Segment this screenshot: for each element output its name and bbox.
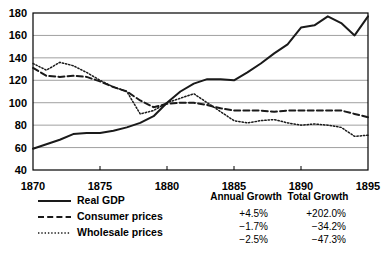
y-tick-label: 140 <box>9 52 27 64</box>
y-axis-labels: 180160140120100806040 <box>9 7 27 176</box>
x-tick-label: 1895 <box>356 180 380 192</box>
x-tick-label: 1880 <box>155 180 179 192</box>
stat-value-total: −34.2% <box>312 221 346 232</box>
legend-label: Real GDP <box>77 194 125 206</box>
gridlines-group <box>33 35 368 147</box>
stat-value-annual: −2.5% <box>239 234 268 245</box>
stat-value-annual: +4.5% <box>239 208 268 219</box>
stat-value-total: −47.3% <box>312 234 346 245</box>
y-tick-label: 180 <box>9 7 27 19</box>
y-tick-label: 80 <box>15 119 27 131</box>
x-tickmarks-group <box>100 166 301 170</box>
legend-label: Consumer prices <box>77 210 163 222</box>
stat-header-total-growth: Total Growth <box>288 191 349 202</box>
stat-header-annual-growth: Annual Growth <box>210 191 282 202</box>
stat-value-total: +202.0% <box>306 208 346 219</box>
legend-label: Wholesale prices <box>77 226 163 238</box>
y-tick-label: 100 <box>9 97 27 109</box>
x-tick-label: 1870 <box>21 180 45 192</box>
stat-value-annual: −1.7% <box>239 221 268 232</box>
series-line-consumer-prices <box>33 68 368 117</box>
legend: Real GDPConsumer pricesWholesale prices <box>38 194 163 238</box>
chart-svg: 180160140120100806040 187018751880188518… <box>0 0 386 253</box>
y-tick-label: 120 <box>9 74 27 86</box>
y-tick-label: 60 <box>15 142 27 154</box>
chart-figure: 180160140120100806040 187018751880188518… <box>0 0 386 253</box>
y-tick-label: 160 <box>9 29 27 41</box>
y-tick-label: 40 <box>15 164 27 176</box>
plot-frame <box>33 13 368 170</box>
growth-stats-table: Annual GrowthTotal Growth+4.5%+202.0%−1.… <box>210 191 348 245</box>
x-tick-label: 1875 <box>88 180 112 192</box>
series-line-real-gdp <box>33 16 368 148</box>
data-series-group <box>33 16 368 148</box>
